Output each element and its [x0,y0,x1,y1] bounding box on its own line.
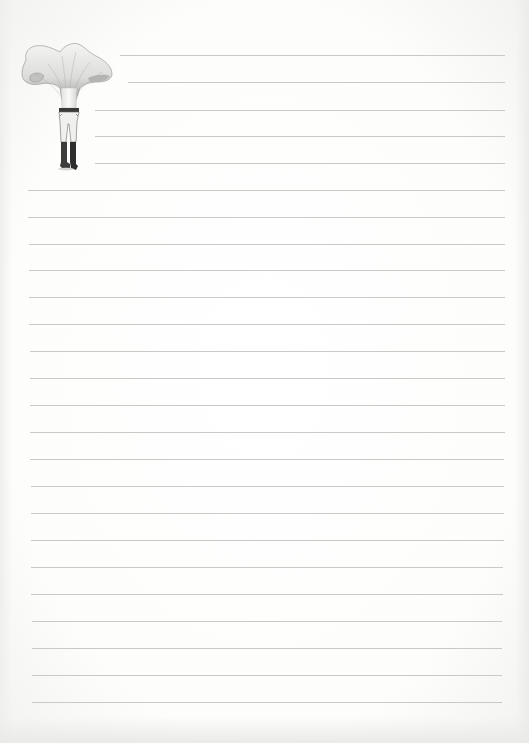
ruled-line [29,244,505,245]
ruled-line [30,351,505,352]
ruled-line [28,190,505,191]
ruled-line [30,405,505,406]
ruled-line [32,621,502,622]
figure-body-icon [58,108,79,171]
ruled-line [32,648,502,649]
ruled-line [128,82,505,83]
ruled-line [32,675,502,676]
ruled-line [31,540,504,541]
ruled-line [31,594,503,595]
ruled-line [95,136,505,137]
ruled-line [31,567,503,568]
ruled-line [31,486,504,487]
ruled-line [28,217,505,218]
ruled-line [29,270,505,271]
paper-edge-right [515,0,529,743]
ruled-line [30,459,504,460]
ruled-line [32,702,502,703]
paper-edge-left [0,0,12,743]
ruled-line [95,163,505,164]
ruled-line [95,110,505,111]
ruled-line [29,324,505,325]
mushroom-figure-illustration [18,38,118,180]
paper-edge-bottom [0,717,529,743]
mushroom-cap-icon [22,43,112,108]
ruled-line [31,513,504,514]
ruled-line [29,297,505,298]
ruled-line [30,378,505,379]
ruled-line [120,55,505,56]
ruled-line [30,432,505,433]
notepaper-sheet [0,0,529,743]
